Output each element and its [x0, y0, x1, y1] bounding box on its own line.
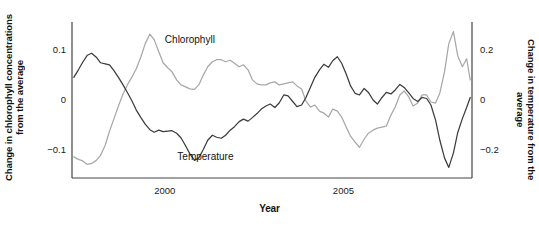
y-tick-left-2: −0.1 [28, 144, 66, 155]
series-line-temperature [74, 53, 470, 167]
y-tick-left-1: 0 [28, 94, 66, 105]
x-tick-1: 2005 [318, 185, 368, 196]
y-tick-left-0: 0.1 [28, 44, 66, 55]
plot-area [0, 0, 539, 227]
series-label-chlorophyll: Chlorophyll [165, 34, 215, 45]
y-tick-right-0: 0.2 [480, 44, 518, 55]
series-paths [74, 32, 470, 168]
y-tick-right-1: 0 [480, 94, 518, 105]
series-line-chlorophyll [74, 32, 470, 165]
x-tick-0: 2000 [140, 185, 190, 196]
y-tick-right-2: −0.2 [480, 144, 518, 155]
chart-figure: Change in chlorophyll concentrations fro… [0, 0, 539, 227]
series-label-temperature: Temperature [177, 151, 233, 162]
